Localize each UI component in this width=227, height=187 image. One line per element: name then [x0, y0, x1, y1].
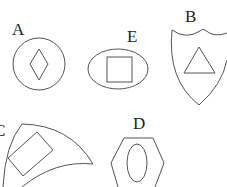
figure-b: B	[171, 7, 227, 105]
shapes-figure: A E B C D	[0, 0, 227, 187]
figure-d: D	[111, 114, 164, 187]
label-e: E	[127, 27, 137, 46]
curved-fan-outline	[3, 124, 93, 187]
label-b: B	[185, 7, 196, 26]
label-a: A	[12, 20, 25, 39]
figure-e: E	[88, 27, 148, 89]
shield-outline	[171, 29, 227, 105]
figure-c: C	[0, 121, 93, 187]
ellipse-outline	[88, 49, 148, 89]
square-outline	[107, 57, 132, 82]
circle-outline	[13, 38, 65, 90]
diamond-outline	[30, 49, 48, 80]
rectangle-outline	[8, 132, 53, 176]
hexagon-outline	[111, 138, 164, 187]
label-c: C	[0, 121, 5, 140]
triangle-outline	[184, 47, 215, 73]
label-d: D	[133, 114, 145, 133]
inner-ellipse-outline	[127, 144, 147, 182]
figure-a: A	[12, 20, 65, 90]
